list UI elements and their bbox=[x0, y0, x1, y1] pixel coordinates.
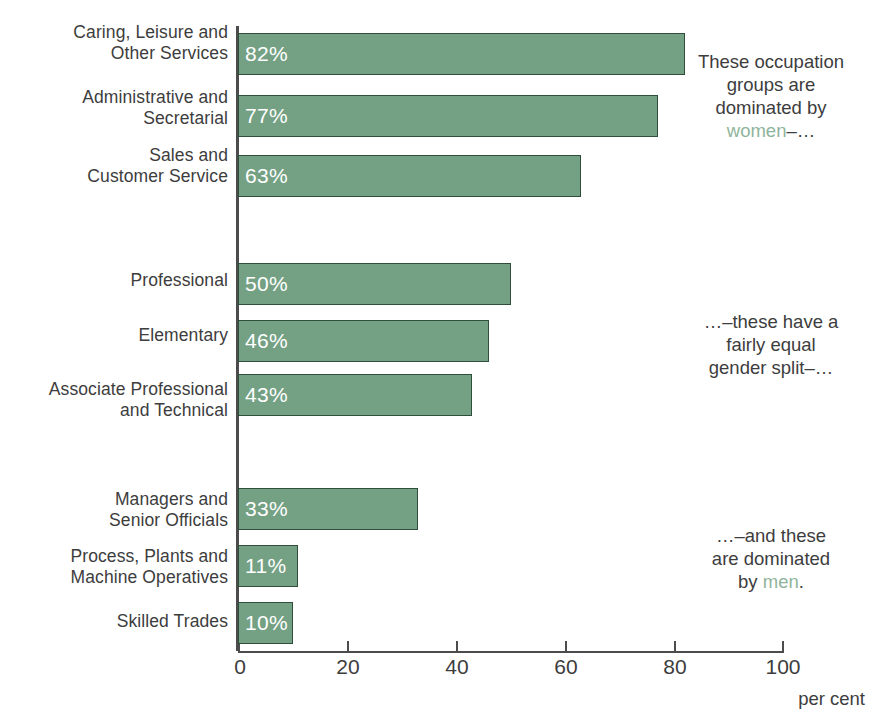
annotation-men-dominated: …–and these are dominated by men. bbox=[675, 524, 867, 593]
bar-value-label: 11% bbox=[245, 554, 286, 578]
annotation-tail: –… bbox=[786, 120, 815, 141]
x-axis-unit-label: per cent bbox=[798, 688, 865, 710]
x-axis-tick bbox=[347, 641, 349, 652]
annotation-line: These occupation bbox=[675, 50, 867, 73]
x-axis-tick-label: 0 bbox=[234, 655, 246, 679]
accent-word-men: men bbox=[763, 571, 799, 592]
annotation-line: gender split–… bbox=[675, 356, 867, 379]
bar-value-label: 43% bbox=[245, 383, 288, 407]
annotation-line: …–these have a bbox=[675, 310, 867, 333]
annotation-women-dominated: These occupation groups are dominated by… bbox=[675, 50, 867, 142]
x-axis-tick-label: 80 bbox=[663, 655, 686, 679]
x-axis-tick bbox=[565, 641, 567, 652]
annotation-tail: . bbox=[799, 571, 804, 592]
x-axis-tick bbox=[782, 641, 784, 652]
accent-word-women: women bbox=[727, 120, 787, 141]
bar-associate-professional: 43% bbox=[238, 374, 472, 416]
bar-value-label: 46% bbox=[245, 329, 288, 353]
x-axis-tick bbox=[456, 641, 458, 652]
bar-elementary: 46% bbox=[238, 320, 489, 362]
bar-skilled-trades: 10% bbox=[238, 602, 293, 644]
bar-caring-leisure: 82% bbox=[238, 33, 685, 75]
annotation-equal-split: …–these have a fairly equal gender split… bbox=[675, 310, 867, 379]
annotation-line: groups are bbox=[675, 73, 867, 96]
bar-sales: 63% bbox=[238, 155, 581, 197]
annotation-line: by men. bbox=[675, 570, 867, 593]
bar-professional: 50% bbox=[238, 263, 511, 305]
annotation-line: women–… bbox=[675, 119, 867, 142]
x-axis-tick-label: 20 bbox=[336, 655, 359, 679]
bar-value-label: 77% bbox=[245, 104, 288, 128]
annotation-line: fairly equal bbox=[675, 333, 867, 356]
x-axis-tick-label: 100 bbox=[765, 655, 800, 679]
bar-value-label: 33% bbox=[245, 497, 288, 521]
annotation-line: dominated by bbox=[675, 96, 867, 119]
annotation-lead: by bbox=[738, 571, 763, 592]
x-axis-tick-label: 60 bbox=[554, 655, 577, 679]
bar-process-plants: 11% bbox=[238, 545, 298, 587]
x-axis-tick-label: 40 bbox=[445, 655, 468, 679]
x-axis-tick bbox=[674, 641, 676, 652]
bar-value-label: 82% bbox=[245, 42, 288, 66]
bar-value-label: 10% bbox=[245, 611, 288, 635]
bar-chart: Caring, Leisure and Other Services Admin… bbox=[0, 0, 873, 722]
annotation-line: …–and these bbox=[675, 524, 867, 547]
annotation-line: are dominated bbox=[675, 547, 867, 570]
bar-value-label: 63% bbox=[245, 164, 288, 188]
bar-managers: 33% bbox=[238, 488, 418, 530]
bar-administrative: 77% bbox=[238, 95, 658, 137]
bar-value-label: 50% bbox=[245, 272, 288, 296]
x-axis-line bbox=[238, 651, 784, 653]
